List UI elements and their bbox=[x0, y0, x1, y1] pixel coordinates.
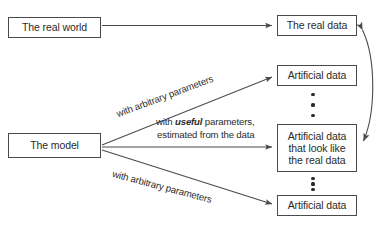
vertical-ellipsis-icon-upper bbox=[311, 93, 315, 117]
node-the-model: The model bbox=[8, 133, 101, 158]
ellipsis-dot bbox=[311, 188, 314, 191]
node-artificial-data-bottom: Artificial data bbox=[277, 195, 357, 216]
node-the-model-label: The model bbox=[30, 139, 79, 151]
node-artificial-data-top: Artificial data bbox=[277, 65, 357, 86]
node-artificial-data-like-real-line3: the real data bbox=[288, 154, 347, 166]
node-artificial-data-top-label: Artificial data bbox=[288, 69, 347, 81]
node-artificial-data-like-real-line1: Artificial data bbox=[288, 130, 347, 142]
ellipsis-dot bbox=[311, 177, 314, 180]
ellipsis-dot bbox=[311, 114, 314, 117]
node-the-real-world-label: The real world bbox=[22, 21, 87, 33]
vertical-ellipsis-icon-lower bbox=[311, 177, 315, 191]
edge-comparison-curve bbox=[363, 30, 373, 141]
node-artificial-data-like-real: Artificial data that look like the real … bbox=[277, 124, 357, 172]
ellipsis-dot bbox=[311, 182, 314, 185]
edge-label-useful-prefix: with bbox=[156, 116, 175, 127]
ellipsis-dot bbox=[311, 103, 314, 106]
node-the-real-data-label: The real data bbox=[287, 19, 348, 31]
node-the-real-world: The real world bbox=[8, 17, 101, 38]
node-the-real-data: The real data bbox=[277, 15, 357, 36]
ellipsis-dot bbox=[311, 93, 314, 96]
edge-label-useful-suffix: parameters, bbox=[202, 116, 254, 127]
edge-label-useful-parameters-line1: with useful parameters, bbox=[156, 116, 254, 129]
node-artificial-data-like-real-text: Artificial data that look like the real … bbox=[288, 130, 347, 167]
edge-label-useful-parameters-line2: estimated from the data bbox=[156, 129, 254, 142]
edge-label-useful-parameters: with useful parameters, estimated from t… bbox=[156, 116, 254, 141]
node-artificial-data-bottom-label: Artificial data bbox=[288, 199, 347, 211]
node-artificial-data-like-real-line2: that look like bbox=[288, 142, 347, 154]
edge-label-useful-emphasis: useful bbox=[175, 116, 202, 127]
diagram-canvas: The real world The model The real data A… bbox=[0, 0, 378, 230]
